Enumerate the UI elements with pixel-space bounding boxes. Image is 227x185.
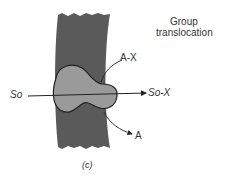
panel-label: (c): [82, 160, 93, 171]
label-so-x: So-X: [148, 87, 170, 98]
title-line2: translocation: [156, 27, 213, 38]
title-line1: Group: [170, 16, 198, 27]
label-a-x: A-X: [120, 52, 137, 63]
label-a: A: [135, 130, 142, 141]
label-so: So: [10, 89, 22, 100]
diagram: Group translocation A-X So So-X A (c): [0, 0, 227, 185]
